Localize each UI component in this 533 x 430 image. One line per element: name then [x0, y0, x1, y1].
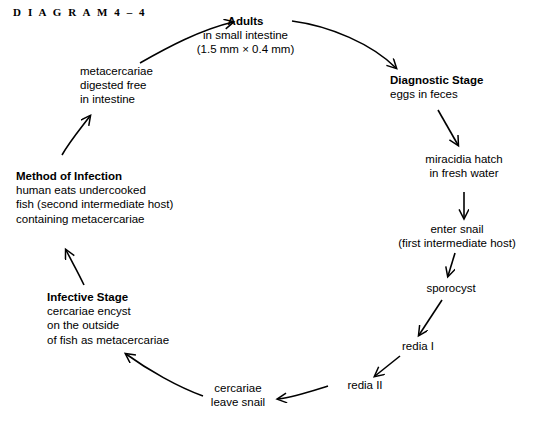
node-diagnostic-stage-title: Diagnostic Stage [390, 73, 483, 87]
node-method-of-infection-line-2: fish (second intermediate host) [16, 197, 173, 211]
node-enter-snail-line-1: enter snail [381, 222, 533, 236]
node-miracidia-line-1: miracidia hatch [398, 152, 530, 166]
arrow-method-to-metacercariae [62, 116, 90, 155]
node-infective-stage-line-3: of fish as metacercariae [47, 333, 169, 347]
arrow-infective-to-method [66, 250, 84, 285]
node-sporocyst-line-1: sporocyst [406, 281, 496, 295]
node-cercariae-leave-snail-line-2: leave snail [194, 395, 282, 409]
node-redia-2-line-1: redia II [330, 378, 400, 392]
arrow-redia-2-to-cercariae [278, 386, 328, 399]
arrow-redia-1-to-redia-2 [375, 356, 400, 376]
figure-label: D I A G R A M 4 – 4 [13, 6, 147, 18]
node-method-of-infection: Method of Infection human eats undercook… [16, 169, 173, 226]
node-cercariae-leave-snail-line-1: cercariae [194, 381, 282, 395]
node-adults-line-2: (1.5 mm × 0.4 mm) [178, 42, 313, 56]
node-adults: Adults in small intestine (1.5 mm × 0.4 … [178, 14, 313, 57]
node-metacercariae-digested: metacercariae digested free in intestine [80, 64, 153, 107]
node-adults-title: Adults [178, 14, 313, 28]
node-metacercariae-digested-line-1: metacercariae [80, 64, 153, 78]
node-infective-stage-title: Infective Stage [47, 290, 169, 304]
node-enter-snail-line-2: (first intermediate host) [381, 236, 533, 250]
node-method-of-infection-title: Method of Infection [16, 169, 173, 183]
node-miracidia: miracidia hatch in fresh water [398, 152, 530, 180]
node-infective-stage-line-2: on the outside [47, 318, 169, 332]
node-enter-snail: enter snail (first intermediate host) [381, 222, 533, 250]
arrow-sporocyst-to-redia-1 [419, 300, 442, 335]
node-method-of-infection-line-1: human eats undercooked [16, 183, 173, 197]
arrow-diagnostic-to-miracidia [438, 110, 458, 145]
node-redia-2: redia II [330, 378, 400, 392]
life-cycle-diagram: D I A G R A M 4 – 4 Adults [0, 0, 533, 430]
node-adults-line-1: in small intestine [178, 28, 313, 42]
arrow-cercariae-to-infective [126, 354, 203, 396]
node-metacercariae-digested-line-2: digested free [80, 78, 153, 92]
node-sporocyst: sporocyst [406, 281, 496, 295]
node-redia-1: redia I [383, 339, 453, 353]
node-method-of-infection-line-3: containing metacercariae [16, 212, 173, 226]
node-cercariae-leave-snail: cercariae leave snail [194, 381, 282, 409]
node-redia-1-line-1: redia I [383, 339, 453, 353]
arrow-enter-snail-to-sporocyst [448, 253, 455, 276]
node-diagnostic-stage-line-1: eggs in feces [390, 87, 483, 101]
node-diagnostic-stage: Diagnostic Stage eggs in feces [390, 73, 483, 101]
node-metacercariae-digested-line-3: in intestine [80, 92, 153, 106]
node-infective-stage: Infective Stage cercariae encyst on the … [47, 290, 169, 347]
node-infective-stage-line-1: cercariae encyst [47, 304, 169, 318]
node-miracidia-line-2: in fresh water [398, 166, 530, 180]
